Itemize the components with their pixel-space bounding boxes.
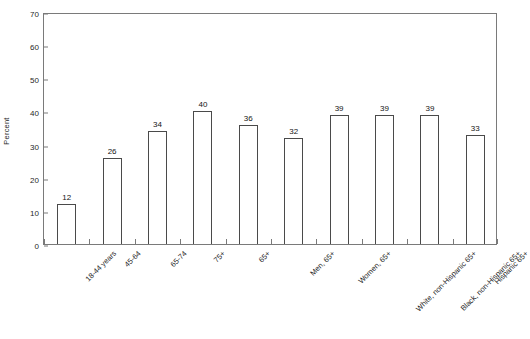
y-tick-label: 70 bbox=[30, 10, 44, 19]
y-tick-mark bbox=[44, 246, 48, 247]
y-tick-label: 10 bbox=[30, 208, 44, 217]
x-tick-mark bbox=[226, 239, 227, 244]
bar[interactable]: 36 bbox=[239, 125, 258, 244]
x-category-label: 65-74 bbox=[168, 249, 188, 269]
x-tick-mark bbox=[180, 239, 181, 244]
x-tick-mark bbox=[44, 239, 45, 244]
x-category-label: 18-44 years bbox=[83, 249, 117, 283]
x-category-label: 45-64 bbox=[123, 249, 143, 269]
bars-layer: 12263440363239393933 bbox=[44, 14, 496, 244]
y-tick-label: 20 bbox=[30, 175, 44, 184]
x-axis-labels: 18-44 years45-6465-7475+65+Men, 65+Women… bbox=[43, 249, 497, 339]
x-tick-mark bbox=[497, 239, 498, 244]
bar-value-label: 34 bbox=[153, 120, 162, 129]
x-tick-mark bbox=[271, 239, 272, 244]
x-tick-mark bbox=[362, 239, 363, 244]
x-tick-mark bbox=[316, 239, 317, 244]
bar-value-label: 33 bbox=[471, 124, 480, 133]
bar-value-label: 39 bbox=[425, 104, 434, 113]
x-category-label: 75+ bbox=[212, 249, 227, 264]
bar[interactable]: 40 bbox=[193, 111, 212, 244]
y-tick-label: 30 bbox=[30, 142, 44, 151]
y-axis-title: Percent bbox=[2, 96, 11, 166]
bar[interactable]: 39 bbox=[420, 115, 439, 244]
bar[interactable]: 32 bbox=[284, 138, 303, 244]
x-tick-mark bbox=[453, 239, 454, 244]
bar-value-label: 12 bbox=[62, 193, 71, 202]
x-category-label: Men, 65+ bbox=[308, 249, 337, 278]
plot-area: 010203040506070 12263440363239393933 bbox=[43, 13, 497, 245]
y-tick-label: 40 bbox=[30, 109, 44, 118]
x-category-label: 65+ bbox=[257, 249, 272, 264]
bar-value-label: 39 bbox=[380, 104, 389, 113]
bar[interactable]: 39 bbox=[330, 115, 349, 244]
x-category-label: Women, 65+ bbox=[357, 249, 393, 285]
y-tick-label: 50 bbox=[30, 76, 44, 85]
x-tick-mark bbox=[89, 239, 90, 244]
bar-value-label: 32 bbox=[289, 127, 298, 136]
bar[interactable]: 12 bbox=[57, 204, 76, 244]
bar-value-label: 39 bbox=[335, 104, 344, 113]
x-tick-mark bbox=[407, 239, 408, 244]
bar[interactable]: 39 bbox=[375, 115, 394, 244]
x-tick-mark bbox=[135, 239, 136, 244]
bar-value-label: 26 bbox=[108, 147, 117, 156]
bar[interactable]: 34 bbox=[148, 131, 167, 244]
bar[interactable]: 26 bbox=[103, 158, 122, 244]
bar-value-label: 40 bbox=[198, 100, 207, 109]
bar-value-label: 36 bbox=[244, 114, 253, 123]
bar[interactable]: 33 bbox=[466, 135, 485, 244]
y-tick-label: 60 bbox=[30, 43, 44, 52]
